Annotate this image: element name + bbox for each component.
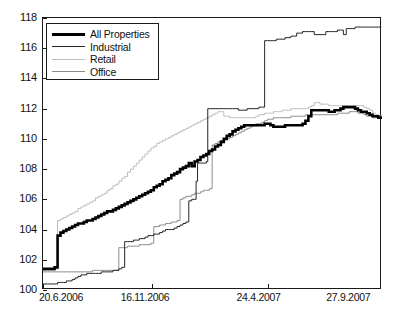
legend-swatch-icon: [52, 59, 85, 60]
legend-swatch-icon: [52, 71, 85, 72]
series-line-office: [43, 112, 381, 272]
legend-label: Office: [90, 66, 116, 79]
y-tick-label: 116: [20, 41, 37, 53]
y-tick-mark: [43, 169, 47, 170]
y-tick-mark: [43, 18, 47, 19]
y-tick-mark: [43, 199, 47, 200]
y-tick-label: 106: [19, 192, 37, 204]
y-tick-mark: [43, 109, 47, 110]
y-axis-labels: 100102104106108110112114116118: [0, 0, 37, 327]
y-tick-mark: [43, 230, 47, 231]
y-tick-mark: [43, 139, 47, 140]
y-tick-mark: [43, 260, 47, 261]
legend-label: All Properties: [90, 28, 150, 41]
x-tick-label: 27.9.2007: [326, 291, 370, 303]
x-tick-label: 20.6.2006: [39, 291, 83, 303]
x-tick-mark: [268, 284, 269, 288]
legend-label: Industrial: [90, 41, 131, 54]
legend-item-industrial[interactable]: Industrial: [52, 41, 154, 54]
legend-item-office[interactable]: Office: [52, 66, 154, 79]
chart-legend: All PropertiesIndustrialRetailOffice: [46, 23, 159, 80]
x-tick-mark: [152, 284, 153, 288]
y-tick-label: 100: [19, 283, 37, 295]
y-tick-label: 102: [19, 253, 37, 265]
legend-swatch-icon: [52, 33, 85, 36]
legend-label: Retail: [90, 53, 116, 66]
y-tick-label: 110: [20, 132, 37, 144]
y-tick-label: 118: [20, 11, 37, 23]
x-tick-mark: [43, 284, 44, 288]
y-tick-label: 104: [19, 223, 37, 235]
legend-item-all-properties[interactable]: All Properties: [52, 28, 154, 41]
x-tick-mark: [380, 284, 381, 288]
chart-figure: 100102104106108110112114116118 20.6.2006…: [0, 0, 407, 327]
y-tick-label: 108: [19, 162, 37, 174]
y-tick-label: 114: [20, 71, 37, 83]
legend-item-retail[interactable]: Retail: [52, 53, 154, 66]
x-tick-label: 16.11.2006: [121, 291, 170, 303]
x-tick-label: 24.4.2007: [237, 291, 281, 303]
legend-swatch-icon: [52, 46, 85, 47]
y-tick-label: 112: [20, 102, 37, 114]
